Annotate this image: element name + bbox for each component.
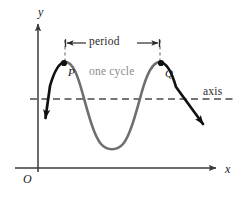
curve-one-cycle-gray bbox=[65, 62, 160, 149]
point-q-marker bbox=[158, 60, 164, 66]
figure-canvas bbox=[0, 0, 242, 197]
sinusoid-period-figure: y x O P Q period one cycle axis bbox=[0, 0, 242, 197]
curve-right-tail-black bbox=[160, 62, 203, 124]
curve-left-tail-black bbox=[46, 62, 66, 118]
point-p-marker bbox=[61, 60, 67, 66]
